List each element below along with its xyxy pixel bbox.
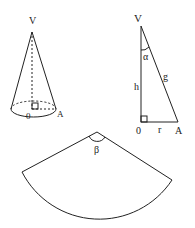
triangle-alpha-label: α [143,51,149,62]
triangle-slant [141,26,178,122]
cone-right-angle-mark [32,103,38,109]
triangle-apex-label: V [134,12,142,24]
sector-beta-label: β [94,144,99,155]
cone-apex-label: V [29,15,37,26]
sector-beta-arc [89,136,105,141]
triangle-center-label: 0 [136,125,141,136]
cone-base-back-dashed [11,101,56,109]
sector-arc [22,172,172,219]
triangle-radius-label: r [158,124,162,135]
cone-base-front [11,109,56,117]
triangle-slant-label: g [163,71,168,82]
triangle-right-angle-mark [141,116,147,122]
triangle-alpha-arc [141,47,149,50]
cone-point-a-label: A [57,109,64,119]
triangle-height-label: h [134,81,139,92]
cone-figure [11,32,56,117]
sector-left-radius [22,132,97,172]
geometry-diagram: V 0 A V α h g 0 r A β [0,0,195,228]
cone-left-edge [11,32,32,109]
triangle-figure [141,26,178,122]
sector-right-radius [97,132,172,180]
cone-right-edge [32,32,56,109]
cone-center-label: 0 [26,111,31,121]
triangle-point-a-label: A [175,125,183,136]
